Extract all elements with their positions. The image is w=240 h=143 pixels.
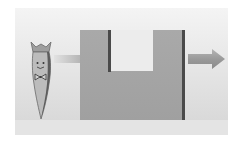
ground-strip xyxy=(15,120,228,135)
carrot-eye-right-icon xyxy=(43,62,45,64)
u-block-notch xyxy=(110,30,153,71)
inflow-arrow xyxy=(54,55,81,63)
bow-tie-knot xyxy=(40,76,42,78)
notch-edge xyxy=(108,30,111,72)
carrot-eye-left-icon xyxy=(37,62,39,64)
diagram-stage xyxy=(0,0,240,143)
block-right-edge xyxy=(182,30,185,120)
u-shaped-block xyxy=(80,30,185,120)
diagram-canvas xyxy=(0,0,240,143)
